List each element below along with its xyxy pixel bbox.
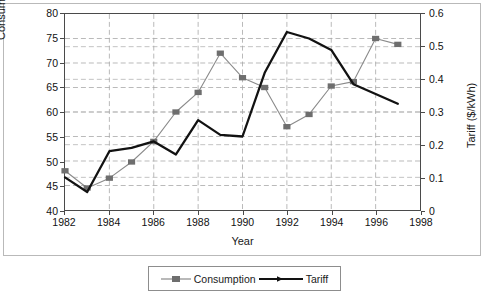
- x-axis-tickmark: [198, 211, 199, 215]
- x-axis-tick: 1982: [42, 217, 86, 228]
- y-axis-left-tick: 75: [28, 33, 58, 44]
- y-axis-left-tick: 55: [28, 132, 58, 143]
- x-axis-tick: 1984: [87, 217, 131, 228]
- y-axis-left-tickmark: [60, 137, 64, 138]
- y-axis-right-title: Tariff ($/kWh): [465, 83, 477, 148]
- chart-figure: Consumption (GWh/year) Tariff ($/kWh) Ye…: [0, 0, 489, 297]
- x-axis-tick: 1996: [354, 217, 398, 228]
- y-axis-left-tick: 40: [28, 206, 58, 217]
- y-axis-right-tick: 0: [429, 206, 435, 217]
- y-axis-left-tickmark: [60, 87, 64, 88]
- x-axis-tick: 1998: [399, 217, 443, 228]
- x-axis-tick: 1986: [131, 217, 175, 228]
- x-axis-tickmark: [64, 211, 65, 215]
- x-axis-tick: 1994: [310, 217, 354, 228]
- y-axis-left-tickmark: [60, 112, 64, 113]
- y-axis-left-tickmark: [60, 162, 64, 163]
- y-axis-left-tickmark: [60, 13, 64, 14]
- y-axis-right-tickmark: [421, 178, 425, 179]
- x-axis-tick: 1992: [265, 217, 309, 228]
- x-axis-tickmark: [153, 211, 154, 215]
- x-axis-tickmark: [287, 211, 288, 215]
- y-axis-right-tickmark: [421, 79, 425, 80]
- y-axis-left-tick: 65: [28, 82, 58, 93]
- chart-legend: Consumption Tariff: [148, 266, 341, 291]
- x-axis-tickmark: [376, 211, 377, 215]
- y-axis-left-tickmark: [60, 186, 64, 187]
- y-axis-left-tickmark: [60, 63, 64, 64]
- legend-swatch-consumption: [161, 274, 191, 284]
- y-axis-left-title: Consumption (GWh/year): [0, 0, 7, 40]
- y-axis-right-tick: 0.6: [429, 8, 444, 19]
- y-axis-right-tick: 0.4: [429, 74, 444, 85]
- y-axis-left-tick: 80: [28, 8, 58, 19]
- y-axis-right-tick: 0.3: [429, 107, 444, 118]
- y-axis-right-tickmark: [421, 112, 425, 113]
- y-axis-right-tick: 0.2: [429, 140, 444, 151]
- y-axis-left-tick: 70: [28, 58, 58, 69]
- x-axis-tickmark: [109, 211, 110, 215]
- x-axis-tickmark: [243, 211, 244, 215]
- y-axis-right-tickmark: [421, 46, 425, 47]
- legend-swatch-tariff: [259, 274, 303, 284]
- x-axis-tick: 1988: [176, 217, 220, 228]
- x-axis-tickmark: [421, 211, 422, 215]
- y-axis-left-tick: 50: [28, 157, 58, 168]
- legend-label-tariff: Tariff: [306, 273, 329, 285]
- x-axis-title: Year: [64, 235, 421, 247]
- y-axis-right-tick: 0.5: [429, 41, 444, 52]
- y-axis-right-tick: 0.1: [429, 173, 444, 184]
- y-axis-left-tickmark: [60, 38, 64, 39]
- data-series: [65, 14, 420, 210]
- y-axis-right-tickmark: [421, 145, 425, 146]
- x-axis-tickmark: [332, 211, 333, 215]
- y-axis-left-tick: 60: [28, 107, 58, 118]
- y-axis-left-tick: 45: [28, 181, 58, 192]
- legend-label-consumption: Consumption: [194, 273, 256, 285]
- plot-area: [64, 13, 421, 211]
- y-axis-right-tickmark: [421, 13, 425, 14]
- x-axis-tick: 1990: [221, 217, 265, 228]
